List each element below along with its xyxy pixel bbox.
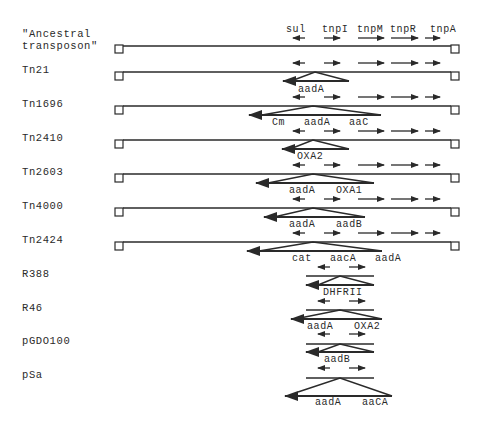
cassette-label: aadA [375, 253, 401, 264]
cassette-label: OXA1 [336, 185, 362, 196]
insertion-r46 [291, 310, 382, 319]
cassette-label: aadA [289, 219, 315, 230]
left-terminal-box [115, 45, 123, 53]
cassette-label: aaC [349, 117, 369, 128]
insertion-pgdo100 [306, 344, 374, 352]
cassette-label: aadA [289, 185, 315, 196]
row-label-ancestral-1: "Ancestral [22, 28, 91, 40]
gene-label-sul: sul [286, 24, 306, 35]
cassette-label: OXA2 [354, 321, 380, 332]
backbone-tn2410 [115, 140, 459, 148]
transposon-backbones [115, 45, 459, 378]
cassette-label: aadB [336, 219, 362, 230]
cassette-label: DHFRII [323, 287, 363, 298]
gene-label-tnpA: tnpA [430, 24, 456, 35]
row-labels: "Ancestral transposon" Tn21 Tn1696 Tn241… [22, 28, 98, 381]
cassette-label: Cm [272, 117, 285, 128]
row-label-tn1696: Tn1696 [22, 98, 63, 110]
backbone-tn2603 [115, 174, 459, 182]
backbone-ancestral [115, 45, 459, 53]
row-label-r388: R388 [22, 268, 50, 280]
gene-label-tnpI: tnpI [322, 24, 348, 35]
backbone-tn4000 [115, 208, 459, 216]
insertion-tn1696 [249, 106, 381, 115]
row-label-tn2410: Tn2410 [22, 132, 63, 144]
cassette-label: aadA [304, 117, 330, 128]
gene-label-tnpR: tnpR [390, 24, 416, 35]
row-label-tn4000: Tn4000 [22, 200, 63, 212]
right-terminal-box [451, 45, 459, 53]
row-label-ancestral-2: transposon" [22, 40, 98, 52]
cassette-label: aacA [330, 253, 356, 264]
insertion-tn2410 [282, 140, 349, 149]
cassette-label: aadB [324, 354, 350, 365]
insertion-tn2424 [247, 242, 382, 251]
gene-label-tnpM: tnpM [357, 24, 383, 35]
cassette-label: OXA2 [297, 151, 323, 162]
cassette-label: cat [292, 253, 312, 264]
insertion-r388 [306, 276, 374, 285]
cassette-label: aadA [307, 321, 333, 332]
row-label-r46: R46 [22, 302, 43, 314]
row-label-tn2424: Tn2424 [22, 234, 63, 246]
cassette-label: aadA [298, 84, 324, 95]
cassette-label: aadA [315, 397, 341, 408]
row-label-tn21: Tn21 [22, 64, 50, 76]
insertion-psa [285, 378, 392, 396]
backbone-tn21 [115, 72, 459, 80]
cassette-label: aaCA [362, 397, 388, 408]
header-gene-labels: sul tnpI tnpM tnpR tnpA [286, 24, 456, 35]
row-label-pgdo100: pGDO100 [22, 335, 70, 347]
insertion-tn2603 [256, 174, 374, 183]
insertion-tn21 [283, 72, 349, 81]
insertion-tn4000 [264, 208, 365, 217]
row-label-tn2603: Tn2603 [22, 166, 63, 178]
row-label-psa: pSa [22, 369, 43, 381]
transposon-diagram: sul tnpI tnpM tnpR tnpA "Ancestral trans… [0, 0, 479, 423]
